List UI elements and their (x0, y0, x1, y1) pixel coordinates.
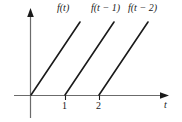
series-lines (31, 22, 148, 95)
x-axis-ticks (66, 96, 100, 101)
x-tick-label-2: 2 (96, 101, 101, 111)
x-axis-label: t (164, 100, 167, 110)
series-label-f-t-minus-1: f(t − 1) (91, 3, 120, 13)
series-label-f-t-minus-2: f(t − 2) (128, 3, 157, 13)
y-axis-arrowhead-icon (27, 8, 34, 17)
figure-ramp-time-shifts: f(t) f(t − 1) f(t − 2) 1 2 t (0, 0, 182, 122)
series-label-f-t: f(t) (57, 3, 69, 13)
x-axis (14, 92, 169, 98)
x-axis-arrowhead-icon (160, 92, 169, 98)
y-axis (27, 8, 34, 118)
x-tick-label-1: 1 (62, 101, 67, 111)
plot-canvas (0, 0, 182, 122)
